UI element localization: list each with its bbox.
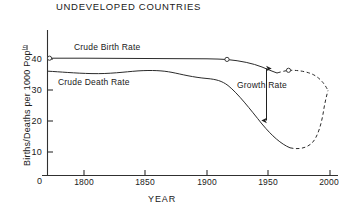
y-axis-title: Births/Deaths per 1000 Popln xyxy=(21,31,32,181)
birth-rate-1980-marker xyxy=(286,68,290,72)
chart-figure: UNDEVELOPED COUNTRIES Births/Deaths per … xyxy=(0,0,341,214)
y-tick-label-40: 40 xyxy=(26,54,42,64)
x-tick-label-1900: 1900 xyxy=(191,177,223,187)
annotation-label-growth-rate: Growth Rate xyxy=(237,80,287,90)
y-axis-ticks xyxy=(48,59,54,152)
x-tick-label-1950: 1950 xyxy=(252,177,284,187)
x-axis-title: YEAR xyxy=(148,194,176,204)
x-tick-label-2000: 2000 xyxy=(313,177,341,187)
y-axis-title-superscript: ln xyxy=(21,45,27,50)
y-tick-label-30: 30 xyxy=(26,85,42,95)
chart-title: UNDEVELOPED COUNTRIES xyxy=(56,1,201,12)
series-label-crude-birth-rate: Crude Birth Rate xyxy=(74,42,141,52)
origin-label: 0 xyxy=(37,176,42,186)
x-axis-ticks xyxy=(84,170,330,176)
birth-rate-1925-marker xyxy=(225,57,229,61)
x-tick-label-1800: 1800 xyxy=(68,177,100,187)
series-crude-death-rate-projected xyxy=(290,91,328,149)
y-tick-label-10: 10 xyxy=(26,147,42,157)
birth-rate-start-marker xyxy=(47,56,51,60)
y-tick-label-20: 20 xyxy=(26,116,42,126)
x-tick-label-1850: 1850 xyxy=(129,177,161,187)
series-label-crude-death-rate: Crude Death Rate xyxy=(58,77,130,87)
chart-canvas xyxy=(0,0,341,214)
